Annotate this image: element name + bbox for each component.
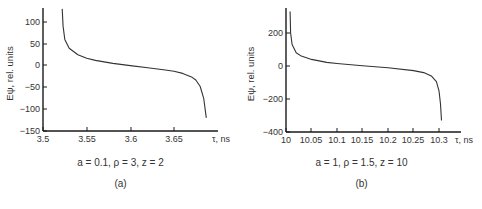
x-tick-label: 3.55 <box>78 134 96 144</box>
y-tick-label: −400 <box>263 127 283 137</box>
chart-b-plot: 2000−200−4001010.0510.110.1510.210.2510.… <box>245 8 474 145</box>
y-tick-label: −50 <box>25 82 40 92</box>
x-tick-label: 3.6 <box>125 134 138 144</box>
x-axis-label: τ, ns <box>212 134 231 144</box>
y-tick-label: −200 <box>263 94 283 104</box>
chart-a-caption: a = 0.1, ρ = 3, z = 2 <box>0 157 241 168</box>
x-tick-label: 10.1 <box>328 135 346 145</box>
x-tick-label: 10 <box>281 135 291 145</box>
x-tick-label: 10.3 <box>430 135 448 145</box>
chart-a-plot: 100500−50−100−1503.53.553.63.65τ, nsEψ, … <box>4 8 231 144</box>
y-axis-label: Eψ, rel. units <box>245 47 256 102</box>
x-tick-label: 10.05 <box>300 135 323 145</box>
y-tick-label: −100 <box>20 104 40 114</box>
x-tick-label: 3.5 <box>37 134 50 144</box>
data-curve <box>290 12 441 121</box>
y-tick-label: 0 <box>35 60 40 70</box>
y-tick-label: 50 <box>30 39 40 49</box>
x-tick-label: 10.25 <box>402 135 425 145</box>
chart-b-caption: a = 1, ρ = 1.5, z = 10 <box>241 157 482 168</box>
x-tick-label: 10.2 <box>379 135 397 145</box>
chart-panel-a: 100500−50−100−1503.53.553.63.65τ, nsEψ, … <box>0 0 241 209</box>
x-tick-label: 3.65 <box>165 134 183 144</box>
chart-a-label: (a) <box>0 178 241 189</box>
chart-panel-b: 2000−200−4001010.0510.110.1510.210.2510.… <box>241 0 482 209</box>
x-tick-label: 10.15 <box>351 135 374 145</box>
chart-b-label: (b) <box>241 178 482 189</box>
x-axis-label: τ, ns <box>455 135 474 145</box>
y-tick-label: 100 <box>25 17 40 27</box>
y-tick-label: 0 <box>278 61 283 71</box>
data-curve <box>62 9 206 118</box>
y-tick-label: 200 <box>268 28 283 38</box>
y-axis-label: Eψ, rel. units <box>4 46 15 101</box>
